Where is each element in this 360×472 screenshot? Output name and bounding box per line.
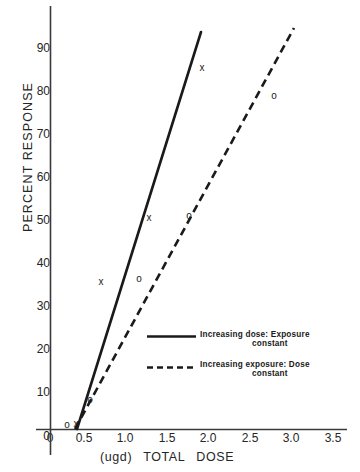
chart-vector-layer [0, 0, 360, 472]
chart-figure: PERCENT RESPONSE 90 80 70 60 50 40 30 20… [0, 0, 360, 472]
